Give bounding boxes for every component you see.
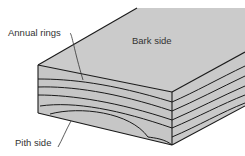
- pith-side-leader: [58, 121, 71, 147]
- annual-rings-label: Annual rings: [8, 28, 61, 38]
- pith-side-label: Pith side: [15, 138, 51, 148]
- board-illustration: [0, 0, 245, 156]
- bark-side-label: Bark side: [132, 36, 172, 46]
- wood-board-diagram: Annual rings Bark side Pith side: [0, 0, 245, 156]
